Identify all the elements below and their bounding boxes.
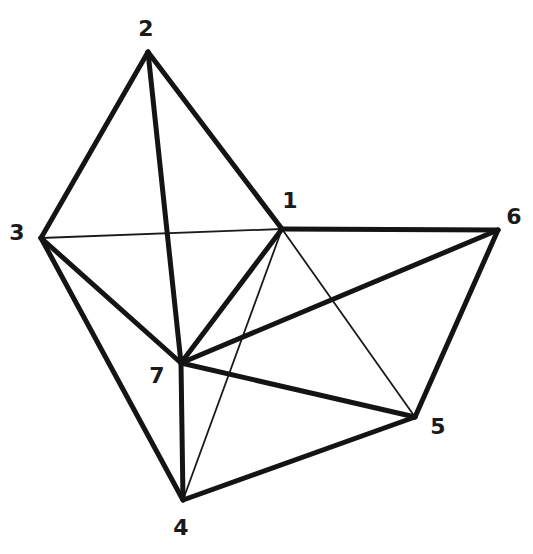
edge-3-7 (41, 238, 181, 363)
edge-1-6 (282, 229, 498, 230)
edge-2-7 (148, 52, 181, 363)
node-label-5: 5 (430, 414, 445, 439)
edge-2-3 (41, 52, 148, 238)
node-label-4: 4 (173, 515, 188, 540)
edge-7-4 (181, 363, 183, 500)
node-label-2: 2 (138, 16, 153, 41)
node-label-1: 1 (282, 188, 297, 213)
node-label-7: 7 (149, 363, 164, 388)
node-label-6: 6 (506, 204, 521, 229)
edge-2-1 (148, 52, 282, 229)
node-label-3: 3 (9, 220, 24, 245)
edge-3-1 (41, 229, 282, 238)
edge-4-5 (183, 417, 415, 500)
graph-diagram: 1234567 (0, 0, 533, 554)
